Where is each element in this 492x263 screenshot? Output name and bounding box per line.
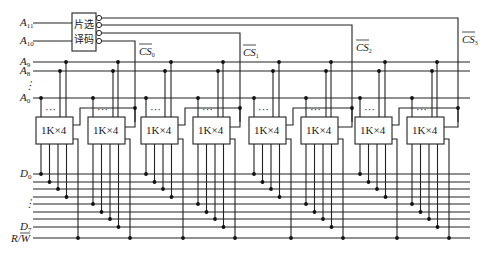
label-a0: A0 — [19, 91, 31, 105]
label-address-ellipsis: ⋮ — [24, 79, 35, 91]
address-ellipsis: ··· — [310, 103, 321, 115]
memory-chip-label: 1K×4 — [41, 124, 67, 136]
memory-chip-label: 1K×4 — [146, 124, 172, 136]
memory-chip-label: 1K×4 — [198, 124, 224, 136]
decoder-label-line2: 译码 — [74, 34, 94, 45]
address-ellipsis: ··· — [416, 103, 427, 115]
svg-text:CS2: CS2 — [356, 41, 372, 54]
memory-chip-label: 1K×4 — [306, 124, 332, 136]
label-a11: A11 — [19, 16, 34, 30]
address-ellipsis: ··· — [150, 103, 161, 115]
address-ellipsis: ··· — [258, 103, 269, 115]
address-ellipsis: ··· — [45, 103, 56, 115]
label-d0: D0 — [19, 167, 32, 181]
svg-text:CS3: CS3 — [462, 33, 478, 46]
label-data-ellipsis: ⋮ — [24, 197, 35, 209]
svg-text:CS1: CS1 — [243, 46, 259, 59]
address-ellipsis: ··· — [364, 103, 375, 115]
memory-chip-label: 1K×4 — [360, 124, 386, 136]
memory-expansion-diagram: 片选 译码 A11 A10 A9 A8 ⋮ A0 CS0 CS1 CS2 CS3… — [0, 0, 492, 263]
svg-text:CS0: CS0 — [139, 45, 155, 58]
memory-chip-label: 1K×4 — [412, 124, 438, 136]
label-cs0: CS0 — [139, 44, 155, 58]
svg-text:R/W: R/W — [10, 232, 31, 244]
label-a10: A10 — [19, 34, 34, 48]
circuit-canvas: 片选 译码 A11 A10 A9 A8 ⋮ A0 CS0 CS1 CS2 CS3… — [0, 0, 492, 263]
label-cs1: CS1 — [243, 45, 259, 59]
address-ellipsis: ··· — [97, 103, 108, 115]
memory-chip-label: 1K×4 — [254, 124, 280, 136]
label-cs2: CS2 — [356, 40, 372, 54]
decoder-label-line1: 片选 — [74, 18, 94, 30]
label-read-write: R/W — [10, 232, 31, 244]
memory-chip-label: 1K×4 — [93, 124, 119, 136]
address-ellipsis: ··· — [202, 103, 213, 115]
label-cs3: CS3 — [462, 32, 478, 46]
